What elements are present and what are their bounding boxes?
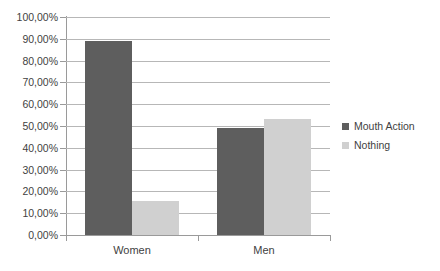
y-axis-tick-label: 40,00% — [2, 143, 58, 154]
y-axis-tick-label: 30,00% — [2, 165, 58, 176]
gridline — [66, 17, 330, 18]
legend-swatch-icon — [342, 123, 349, 130]
gridline — [66, 39, 330, 40]
x-axis-tick — [198, 235, 199, 241]
x-axis-label-women: Women — [66, 244, 198, 257]
y-axis-tick-label: 60,00% — [2, 99, 58, 110]
y-axis-tick-label: 70,00% — [2, 77, 58, 88]
y-axis-tick-label: 0,00% — [2, 230, 58, 241]
bar-men-mouth-action — [217, 128, 264, 235]
legend-label: Mouth Action — [354, 121, 415, 132]
y-axis-tick-label: 100,00% — [2, 12, 58, 23]
legend-label: Nothing — [354, 140, 390, 151]
y-axis-tick-label: 20,00% — [2, 186, 58, 197]
bar-chart: 0,00%10,00%20,00%30,00%40,00%50,00%60,00… — [0, 0, 440, 271]
y-axis-tick-label: 50,00% — [2, 121, 58, 132]
legend-item-nothing: Nothing — [342, 136, 438, 155]
y-axis-labels: 0,00%10,00%20,00%30,00%40,00%50,00%60,00… — [0, 0, 58, 271]
y-axis-tick-label: 90,00% — [2, 34, 58, 45]
legend-item-mouth-action: Mouth Action — [342, 117, 438, 136]
y-axis-tick-label: 80,00% — [2, 56, 58, 67]
bar-women-nothing — [132, 201, 179, 235]
y-axis-tick-label: 10,00% — [2, 208, 58, 219]
plot-area — [66, 17, 330, 235]
bar-men-nothing — [264, 119, 311, 235]
x-axis-tick — [66, 235, 67, 241]
chart-legend: Mouth ActionNothing — [342, 117, 438, 155]
legend-swatch-icon — [342, 142, 349, 149]
x-axis-tick — [330, 235, 331, 241]
bar-women-mouth-action — [85, 41, 132, 235]
x-axis-label-men: Men — [198, 244, 330, 257]
